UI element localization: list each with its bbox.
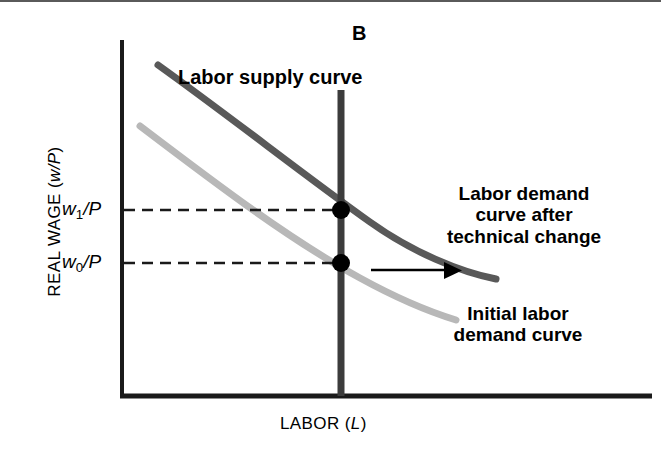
y-tick-label-w1-over-p: w1/P xyxy=(62,198,101,222)
y-axis-label-suffix: ) xyxy=(45,146,64,152)
shift-arrow xyxy=(371,262,462,279)
y-tick-label-w0-over-p: w0/P xyxy=(62,251,101,275)
y-axis-label: REAL WAGE (w/P) xyxy=(45,107,64,337)
x-axis-label-prefix: LABOR ( xyxy=(280,414,351,433)
equilibrium-dot-initial xyxy=(332,254,350,272)
equilibrium-dot-new xyxy=(332,201,350,219)
demand-after-line-3: technical change xyxy=(447,226,601,247)
demand-after-line-1: Labor demand xyxy=(459,183,590,204)
x-axis-label-suffix: ) xyxy=(361,414,367,433)
y-axis-label-variable: w/P xyxy=(45,152,64,182)
figure-panel-b: B Labor supply curve Labor demandcurve a… xyxy=(0,0,661,454)
annotation-labor-supply-curve: Labor supply curve xyxy=(178,66,363,88)
demand-after-line-2: curve after xyxy=(475,204,572,225)
annotation-labor-demand-after-technical-change: Labor demandcurve aftertechnical change xyxy=(404,183,644,247)
annotation-initial-labor-demand-curve: Initial labordemand curve xyxy=(404,303,632,346)
y-axis-label-prefix: REAL WAGE ( xyxy=(45,182,64,297)
initial-demand-line-2: demand curve xyxy=(454,324,583,345)
x-axis-label: LABOR (L) xyxy=(280,414,367,433)
initial-demand-line-1: Initial labor xyxy=(467,303,568,324)
tick-w1-denominator: /P xyxy=(83,198,101,219)
x-axis-label-variable: L xyxy=(351,414,361,433)
tick-w0-denominator: /P xyxy=(83,251,101,272)
labor-demand-after-technical-change-curve xyxy=(158,65,496,279)
page-title: B xyxy=(352,22,367,44)
